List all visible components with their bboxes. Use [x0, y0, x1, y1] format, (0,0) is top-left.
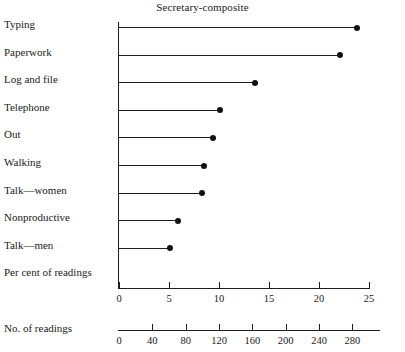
x-tick-count — [152, 324, 153, 331]
value-marker — [199, 190, 205, 196]
value-stem — [119, 220, 178, 221]
x-tick-percent — [319, 282, 320, 289]
value-stem — [119, 27, 357, 28]
x-tick-count — [219, 324, 220, 331]
category-label: Telephone — [4, 102, 50, 113]
x-tick-label-percent: 20 — [314, 293, 325, 304]
x-tick-count — [319, 324, 320, 331]
x-tick-count — [352, 324, 353, 331]
category-label: Paperwork — [4, 47, 52, 58]
x-tick-label-count: 40 — [147, 335, 158, 346]
value-marker — [354, 25, 360, 31]
x-axis-title-count: No. of readings — [4, 323, 72, 334]
x-axis-title-percent: Per cent of readings — [4, 267, 92, 278]
x-tick-label-count: 280 — [344, 335, 360, 346]
x-tick-percent — [369, 282, 370, 289]
x-axis-line-percent — [118, 288, 370, 289]
value-marker — [252, 80, 258, 86]
x-tick-count — [186, 324, 187, 331]
x-tick-percent — [269, 282, 270, 289]
x-tick-label-count: 80 — [180, 335, 191, 346]
x-tick-count — [286, 324, 287, 331]
x-tick-percent — [169, 282, 170, 289]
value-marker — [210, 135, 216, 141]
x-tick-label-percent: 5 — [166, 293, 171, 304]
category-label: Out — [4, 129, 21, 140]
category-label: Talk—men — [4, 240, 53, 251]
value-stem — [119, 110, 220, 111]
x-tick-label-percent: 0 — [116, 293, 121, 304]
category-label: Walking — [4, 157, 41, 168]
value-stem — [119, 82, 255, 83]
category-label: Log and file — [4, 74, 58, 85]
x-tick-percent — [119, 282, 120, 289]
x-axis-line-count — [118, 330, 380, 331]
category-label: Talk—women — [4, 185, 67, 196]
value-stem — [119, 137, 213, 138]
x-tick-label-count: 200 — [278, 335, 294, 346]
value-stem — [119, 165, 204, 166]
x-tick-label-count: 240 — [311, 335, 327, 346]
value-marker — [167, 245, 173, 251]
value-stem — [119, 55, 340, 56]
x-tick-percent — [219, 282, 220, 289]
plot-area — [0, 0, 405, 352]
x-tick-label-percent: 25 — [364, 293, 375, 304]
x-tick-label-count: 0 — [116, 335, 121, 346]
x-tick-count — [252, 324, 253, 331]
value-marker — [175, 218, 181, 224]
x-tick-label-count: 120 — [211, 335, 227, 346]
value-marker — [337, 52, 343, 58]
x-tick-label-count: 160 — [244, 335, 260, 346]
category-label: Typing — [4, 19, 35, 30]
value-marker — [217, 107, 223, 113]
x-tick-label-percent: 10 — [214, 293, 225, 304]
value-stem — [119, 248, 170, 249]
x-tick-label-percent: 15 — [264, 293, 275, 304]
value-marker — [201, 163, 207, 169]
category-label: Nonproductive — [4, 212, 70, 223]
value-stem — [119, 193, 202, 194]
dot-plot-chart: Secretary-composite (function(){ var d =… — [0, 0, 405, 352]
